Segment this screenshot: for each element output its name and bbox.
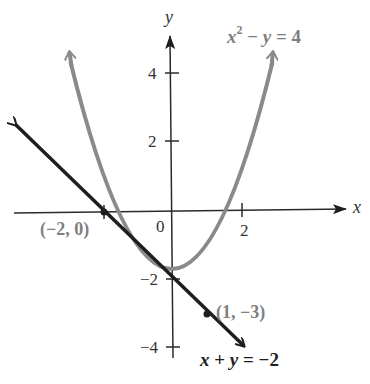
plot-canvas bbox=[0, 0, 370, 384]
intersection-point-b bbox=[204, 311, 211, 318]
y-tick-label-2: 2 bbox=[148, 133, 157, 150]
origin-label: 0 bbox=[156, 218, 165, 235]
line-equation-label: x + y = −2 bbox=[200, 350, 279, 369]
x-axis bbox=[14, 209, 346, 213]
eq-rhs: = −2 bbox=[238, 349, 279, 370]
y-tick-label-neg4: −4 bbox=[140, 339, 158, 356]
graph-figure: y x 4 2 −2 −4 0 2 (−2, 0) (1, −3) x2 − y… bbox=[0, 0, 370, 384]
eq-y: y bbox=[230, 349, 238, 370]
y-tick-label-4: 4 bbox=[148, 65, 157, 82]
intersection-point-a bbox=[101, 209, 108, 216]
parabola-arrow-left bbox=[70, 52, 72, 66]
eq-plus: + bbox=[210, 349, 230, 370]
y-axis-label: y bbox=[165, 8, 173, 26]
y-tick-label-neg2: −2 bbox=[140, 271, 158, 288]
eq-y: y bbox=[263, 26, 271, 47]
x-tick-label-2: 2 bbox=[240, 222, 249, 239]
eq-x: x bbox=[200, 349, 210, 370]
eq-rhs: = 4 bbox=[271, 26, 301, 47]
parabola-equation-label: x2 − y = 4 bbox=[227, 24, 301, 46]
point-label-neg2-0: (−2, 0) bbox=[40, 220, 89, 238]
point-label-1-neg3: (1, −3) bbox=[216, 303, 265, 321]
x-axis-label: x bbox=[353, 198, 361, 216]
y-axis bbox=[170, 36, 173, 358]
parabola-arrow-right bbox=[272, 52, 274, 66]
eq-minus: − bbox=[243, 26, 263, 47]
eq-x: x bbox=[227, 26, 237, 47]
